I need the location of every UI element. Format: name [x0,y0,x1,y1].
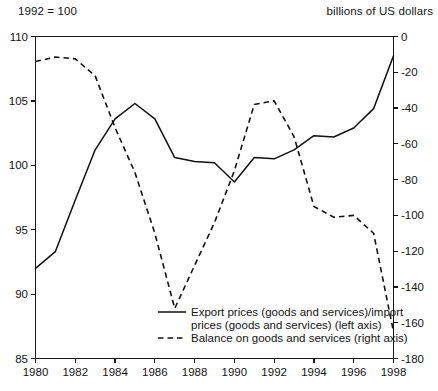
right-axis-tick-label: -60 [401,138,418,150]
x-axis-tick-label: 1984 [102,366,128,378]
right-axis-tick-label: -100 [401,209,424,221]
chart-legend: Export prices (goods and services)/impor… [158,306,408,344]
legend-label-line-2: prices (goods and services) (left axis) [191,319,382,331]
right-axis-tick-label: -160 [401,317,424,329]
right-axis-tick-label: 0 [401,31,407,43]
left-axis-tick-label: 100 [9,159,28,171]
x-axis-tick-label: 1988 [182,366,208,378]
left-axis-unit-label: 1992 = 100 [18,5,77,17]
right-axis-tick-label: -40 [401,102,418,114]
x-axis-tick-label: 1986 [142,366,168,378]
legend-label-line-1: Export prices (goods and services)/impor… [191,306,404,318]
chart-figure: 1992 = 100 billions of US dollars 859095… [0,0,438,391]
left-axis-tick-label: 85 [15,353,28,365]
left-axis-tick-label: 105 [9,95,28,107]
right-axis-tick-label: -120 [401,245,424,257]
right-axis-unit-label: billions of US dollars [327,5,433,17]
right-axis-tick-label: -20 [401,66,418,78]
right-axis-tick-label: -180 [401,353,424,365]
left-axis-tick-label: 95 [15,224,28,236]
x-axis: 1980198219841986198819901992199419961998 [23,359,407,378]
left-axis-tick-label: 110 [10,31,28,43]
right-axis-tick-label: -140 [401,281,424,293]
x-axis-tick-label: 1982 [62,366,88,378]
x-axis-tick-label: 1998 [381,366,407,378]
series-line-balance-goods-services [36,57,394,332]
x-axis-tick-label: 1992 [261,366,287,378]
left-axis: 859095100105110 [9,31,36,365]
x-axis-tick-label: 1980 [23,366,49,378]
series-line-export-import-price-ratio [36,56,394,269]
x-axis-tick-label: 1990 [222,366,248,378]
x-axis-tick-label: 1994 [301,366,327,378]
x-axis-tick-label: 1996 [341,366,367,378]
legend-label-balance: Balance on goods and services (right axi… [191,332,408,344]
left-axis-tick-label: 90 [15,288,28,300]
right-axis-tick-label: -80 [401,174,418,186]
line-chart-plot: 859095100105110 -180-160-140-120-100-80-… [0,0,438,391]
